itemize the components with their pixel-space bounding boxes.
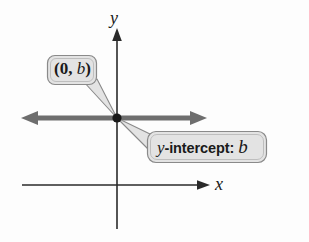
y-axis: [112, 28, 122, 229]
x-axis: [22, 180, 210, 190]
y-intercept-diagram: y x (0, b) y-intercept: b: [0, 0, 309, 242]
callout-intercept-bubble: [148, 132, 267, 163]
callout-intercept-tail: [117, 118, 150, 150]
diagram-canvas: [0, 0, 309, 242]
callout-point-bubble: [48, 56, 97, 85]
intercept-point: [112, 113, 121, 122]
